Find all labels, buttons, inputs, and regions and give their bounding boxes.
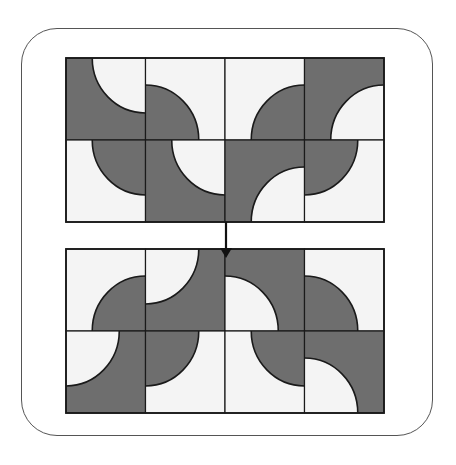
down-arrow-icon <box>0 0 456 465</box>
